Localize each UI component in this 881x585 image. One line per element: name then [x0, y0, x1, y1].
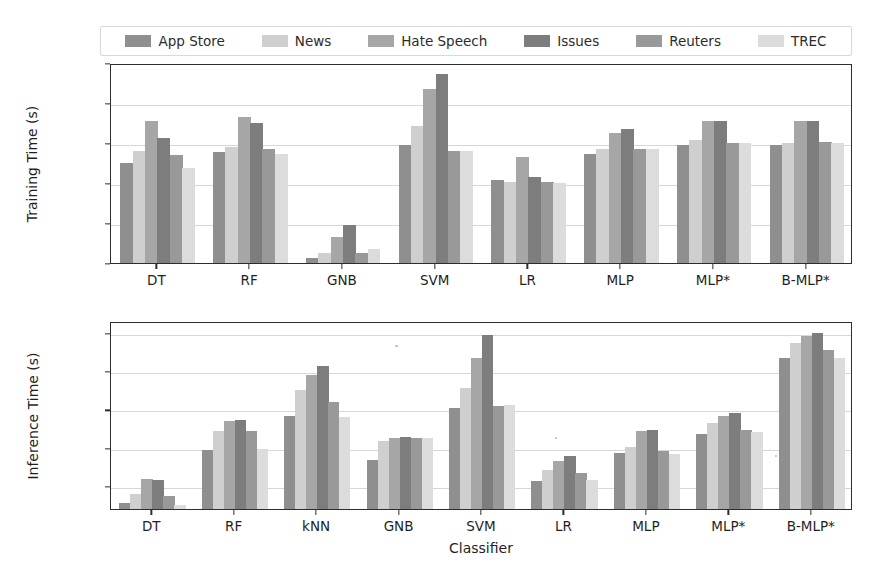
bar [790, 343, 801, 510]
bar [625, 447, 636, 510]
bar [636, 431, 647, 510]
y-tick-mark [105, 143, 110, 144]
bar [702, 121, 715, 264]
bar [157, 138, 170, 264]
bar [812, 333, 823, 510]
x-tick-label: MLP* [696, 272, 730, 288]
bar [553, 183, 566, 264]
training-time-plot-area [110, 64, 852, 264]
bar [339, 417, 350, 510]
x-tick-label: LR [519, 272, 536, 288]
legend-item: TREC [758, 33, 827, 49]
x-tick-mark [156, 264, 157, 269]
bar [306, 258, 319, 264]
bar [448, 151, 461, 264]
bar [224, 421, 235, 510]
legend-label: Reuters [669, 33, 721, 49]
bar [516, 157, 529, 264]
bar [130, 494, 141, 510]
x-tick-mark [645, 510, 646, 515]
x-tick-mark [151, 510, 152, 515]
bar [284, 416, 295, 510]
bar [389, 438, 400, 510]
bar [696, 434, 707, 510]
x-tick-label: DT [142, 518, 161, 534]
x-tick-label: kNN [302, 518, 330, 534]
x-tick-label: GNB [384, 518, 414, 534]
bar [449, 408, 460, 510]
bar [564, 456, 575, 511]
bar [133, 151, 146, 264]
bar [182, 168, 195, 264]
bar [504, 405, 515, 510]
bar [174, 505, 185, 510]
x-tick-label: MLP [606, 272, 633, 288]
bar [460, 388, 471, 510]
legend-label: App Store [158, 33, 224, 49]
bar [378, 441, 389, 510]
legend-item: App Store [125, 33, 224, 49]
bar [471, 358, 482, 510]
bar [677, 145, 690, 264]
bar [491, 180, 504, 264]
x-tick-mark [480, 510, 481, 515]
x-tick-label: MLP [632, 518, 659, 534]
bar [275, 154, 288, 264]
scan-artifact [395, 345, 398, 347]
x-tick-mark [712, 264, 713, 269]
legend-item: Issues [524, 33, 599, 49]
bar [422, 438, 433, 510]
x-tick-label: B-MLP* [787, 518, 835, 534]
x-tick-mark [563, 510, 564, 515]
legend-label: Hate Speech [401, 33, 487, 49]
bar [553, 461, 564, 510]
bar [460, 151, 473, 264]
bar [482, 335, 493, 510]
bar [317, 366, 328, 510]
legend-swatch-icon [368, 35, 394, 47]
scan-artifact [555, 437, 557, 439]
bar [646, 149, 659, 264]
x-tick-mark [527, 264, 528, 269]
legend-swatch-icon [524, 35, 550, 47]
bar [782, 143, 795, 264]
legend-item: News [262, 33, 331, 49]
bar [306, 375, 317, 510]
bar [729, 413, 740, 510]
bar [823, 350, 834, 510]
bar [295, 390, 306, 510]
bar [119, 503, 130, 510]
bar [669, 454, 680, 510]
y-tick-mark [105, 103, 110, 104]
x-axis-label: Classifier [449, 540, 513, 556]
grid-line [111, 335, 851, 336]
bar [751, 432, 762, 510]
bar [213, 431, 224, 510]
legend-label: Issues [557, 33, 599, 49]
y-tick-mark [105, 183, 110, 184]
x-tick-mark [810, 510, 811, 515]
bar [575, 473, 586, 510]
bar [541, 182, 554, 264]
legend-item: Reuters [636, 33, 721, 49]
x-tick-label: RF [225, 518, 242, 534]
bar [658, 451, 669, 510]
bar [504, 182, 517, 264]
y-tick-mark [105, 486, 110, 487]
x-tick-label: SVM [420, 272, 449, 288]
bar [170, 155, 183, 264]
bar [262, 149, 275, 264]
legend-swatch-icon [636, 35, 662, 47]
bar [739, 143, 752, 264]
bar [355, 253, 368, 264]
bar [246, 431, 257, 510]
bar [411, 126, 424, 264]
bar [528, 177, 541, 264]
x-tick-label: LR [555, 518, 572, 534]
bar [423, 89, 436, 264]
bar [794, 121, 807, 264]
legend-swatch-icon [125, 35, 151, 47]
y-tick-mark [105, 371, 110, 372]
y-tick-mark [105, 410, 110, 411]
legend-swatch-icon [262, 35, 288, 47]
